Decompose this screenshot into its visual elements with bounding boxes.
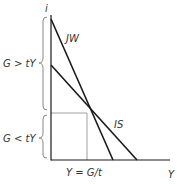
jw-curve-label: JW bbox=[64, 33, 80, 44]
jw-curve bbox=[51, 19, 113, 160]
lower-region-label: G < tY bbox=[3, 133, 36, 144]
lower-brace bbox=[39, 115, 47, 158]
y-axis-label: i bbox=[45, 3, 48, 14]
is-curve-label: IS bbox=[114, 119, 124, 130]
x-axis-label: Y bbox=[168, 169, 175, 180]
jw-is-diagram: i Y JW IS G > tY G < tY Y = G/t bbox=[0, 0, 177, 184]
upper-region-label: G > tY bbox=[3, 58, 36, 69]
x-marker-label: Y = G/t bbox=[66, 167, 103, 178]
upper-brace bbox=[39, 17, 47, 110]
